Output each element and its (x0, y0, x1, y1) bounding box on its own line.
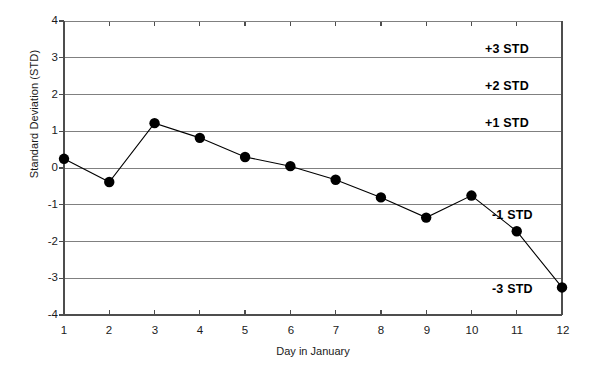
data-point-day-1 (59, 154, 69, 164)
data-point-day-3 (149, 118, 159, 128)
plot-area (0, 0, 594, 375)
data-point-day-4 (195, 133, 205, 143)
data-point-day-5 (240, 152, 250, 162)
data-markers-group (59, 118, 567, 293)
gridlines-group (64, 58, 562, 279)
data-point-day-7 (330, 175, 340, 185)
data-line (64, 123, 562, 287)
data-point-day-8 (376, 192, 386, 202)
data-point-day-2 (104, 177, 114, 187)
data-point-day-6 (285, 161, 295, 171)
data-point-day-9 (421, 212, 431, 222)
standard-deviation-line-chart: Standard Deviation (STD) 4 3 2 1 0 -1 -2… (0, 0, 594, 375)
data-point-day-10 (466, 190, 476, 200)
y-tick-marks-group (59, 21, 64, 315)
data-point-day-12 (557, 282, 567, 292)
data-point-day-11 (512, 226, 522, 236)
